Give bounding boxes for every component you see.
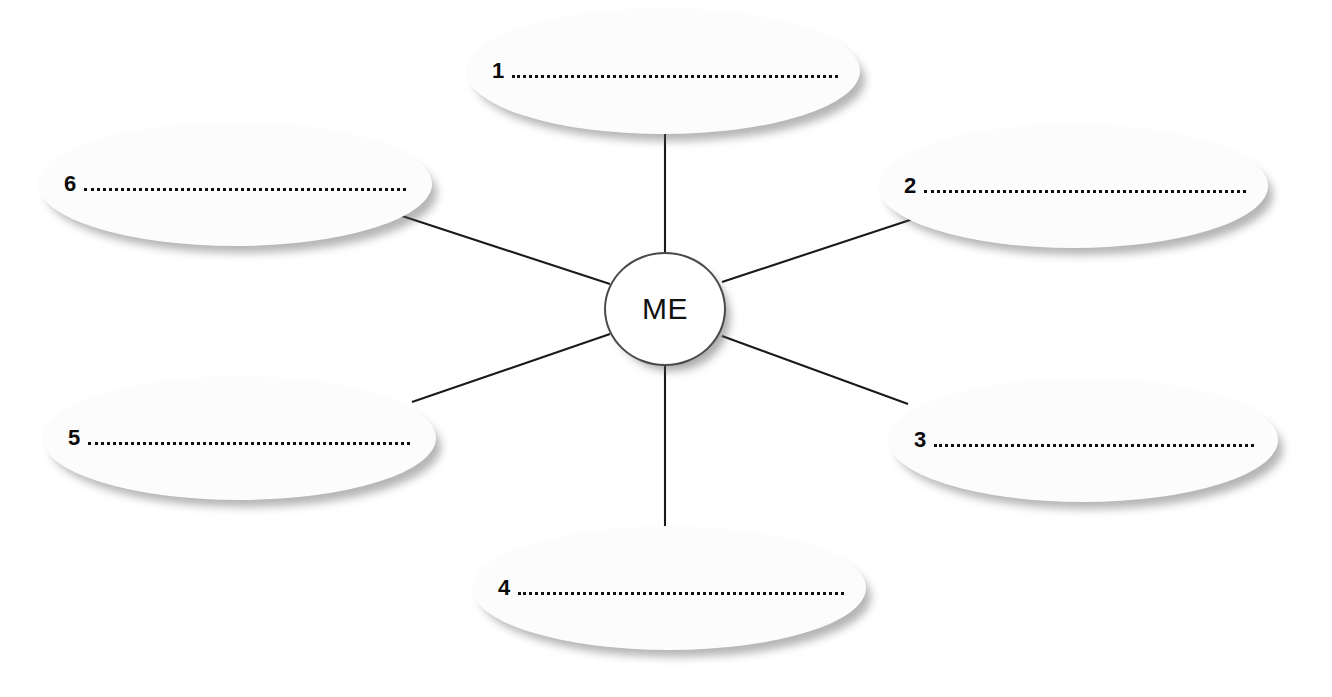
- branch-number-4: 4: [498, 577, 510, 599]
- branch-writing-line-4[interactable]: [518, 591, 844, 595]
- branch-node-2[interactable]: 2: [878, 124, 1268, 248]
- branch-writing-line-6[interactable]: [84, 187, 406, 191]
- branch-writing-line-3[interactable]: [934, 443, 1254, 447]
- branch-node-4[interactable]: 4: [472, 526, 866, 650]
- connector-line-2: [722, 218, 916, 282]
- branch-number-1: 1: [492, 60, 504, 82]
- mind-map-diagram: 1 2 3 4 5 6 ME: [0, 0, 1332, 697]
- connector-line-5: [412, 334, 610, 402]
- branch-writing-line-1[interactable]: [512, 74, 838, 78]
- branch-node-1[interactable]: 1: [466, 8, 860, 134]
- branch-number-3: 3: [914, 429, 926, 451]
- branch-writing-line-5[interactable]: [88, 441, 410, 445]
- center-node-label: ME: [642, 292, 688, 326]
- center-node: ME: [604, 252, 726, 366]
- branch-node-5[interactable]: 5: [42, 376, 436, 500]
- branch-node-3[interactable]: 3: [888, 378, 1278, 502]
- branch-number-6: 6: [64, 173, 76, 195]
- branch-writing-line-2[interactable]: [924, 189, 1246, 193]
- connector-line-3: [722, 336, 908, 404]
- branch-number-2: 2: [904, 175, 916, 197]
- branch-number-5: 5: [68, 427, 80, 449]
- connector-line-6: [396, 214, 610, 284]
- branch-node-6[interactable]: 6: [38, 122, 432, 246]
